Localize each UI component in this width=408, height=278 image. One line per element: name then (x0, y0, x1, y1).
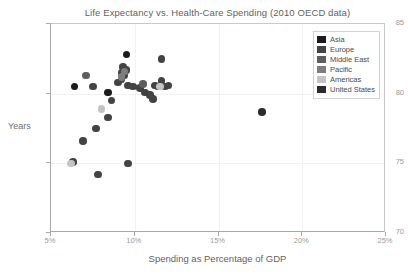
data-point (156, 83, 164, 91)
data-point (104, 89, 112, 97)
data-point (98, 105, 106, 113)
data-point (158, 55, 166, 63)
legend-label: Americas (330, 75, 361, 84)
data-point (108, 97, 116, 105)
data-point (82, 72, 90, 80)
x-axis-tick-mark (218, 232, 219, 236)
x-axis-label: Spending as Percentage of GDP (50, 253, 385, 264)
legend-swatch (317, 56, 326, 63)
scatter-chart: Life Expectancy vs. Health-Care Spending… (0, 0, 408, 278)
legend-label: Asia (330, 35, 345, 44)
legend-item: Asia (317, 35, 375, 45)
gridline-horizontal (51, 163, 384, 164)
y-axis-tick-mark (46, 93, 50, 94)
legend-item: Pacific (317, 65, 375, 75)
data-point (104, 114, 112, 122)
x-axis-tick-label: 25% (365, 236, 405, 245)
gridline-vertical (219, 24, 220, 231)
data-point (67, 160, 75, 168)
y-axis-tick-label: 70 (364, 227, 408, 236)
x-axis-tick-mark (301, 232, 302, 236)
chart-title: Life Expectancy vs. Health-Care Spending… (50, 7, 385, 18)
data-point (118, 73, 126, 81)
y-axis-label: Years (8, 121, 31, 131)
data-point (79, 137, 87, 145)
legend-label: Europe (330, 45, 354, 54)
data-point (71, 83, 79, 91)
x-axis-tick-label: 20% (281, 236, 321, 245)
legend-swatch (317, 46, 326, 53)
legend-label: Middle East (330, 55, 369, 64)
legend-swatch (317, 66, 326, 73)
y-axis-tick-mark (46, 23, 50, 24)
legend-item: United States (317, 85, 375, 95)
data-point (149, 95, 157, 103)
x-axis-tick-label: 15% (198, 236, 238, 245)
chart-legend: AsiaEuropeMiddle EastPacificAmericasUnit… (313, 31, 380, 99)
legend-item: Middle East (317, 55, 375, 65)
legend-swatch (317, 86, 326, 93)
x-axis-tick-label: 10% (114, 236, 154, 245)
gridline-vertical (135, 24, 136, 231)
legend-label: United States (330, 85, 375, 94)
data-point (258, 108, 266, 116)
y-axis-tick-label: 75 (364, 157, 408, 166)
x-axis-tick-mark (385, 232, 386, 236)
data-point (123, 51, 131, 59)
legend-label: Pacific (330, 65, 352, 74)
x-axis-tick-label: 5% (30, 236, 70, 245)
y-axis-tick-mark (46, 162, 50, 163)
x-axis-tick-mark (134, 232, 135, 236)
legend-item: Americas (317, 75, 375, 85)
legend-swatch (317, 36, 326, 43)
x-axis-tick-mark (50, 232, 51, 236)
legend-swatch (317, 76, 326, 83)
legend-item: Europe (317, 45, 375, 55)
y-axis-tick-label: 85 (364, 18, 408, 27)
data-point (89, 83, 97, 91)
data-point (139, 80, 147, 88)
data-point (92, 125, 100, 133)
data-point (94, 171, 102, 179)
data-point (124, 160, 132, 168)
gridline-vertical (302, 24, 303, 231)
